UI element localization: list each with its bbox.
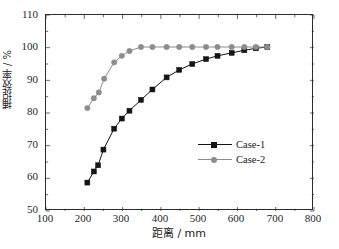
square-marker-icon bbox=[138, 97, 143, 102]
circle-marker-icon bbox=[119, 53, 124, 58]
circle-marker-icon bbox=[242, 44, 247, 49]
square-marker-icon bbox=[85, 180, 90, 185]
circle-marker-icon bbox=[203, 44, 208, 49]
square-marker-icon bbox=[112, 126, 117, 131]
square-marker-icon bbox=[229, 50, 234, 55]
circle-marker-icon bbox=[164, 44, 169, 49]
series-case-2 bbox=[85, 44, 270, 110]
legend-swatch-case-2 bbox=[198, 154, 232, 166]
legend-label-case-1: Case-1 bbox=[232, 139, 265, 151]
y-tick-label-110: 110 bbox=[8, 9, 38, 20]
circle-marker-icon bbox=[211, 157, 217, 163]
plot-area bbox=[45, 14, 313, 210]
circle-marker-icon bbox=[150, 44, 155, 49]
square-marker-icon bbox=[91, 169, 96, 174]
y-tick-label-60: 60 bbox=[8, 171, 38, 182]
circle-marker-icon bbox=[215, 44, 220, 49]
square-marker-icon bbox=[96, 163, 101, 168]
legend: Case-1 Case-2 bbox=[198, 137, 290, 167]
square-marker-icon bbox=[164, 75, 169, 80]
data-svg bbox=[46, 15, 314, 211]
square-marker-icon bbox=[190, 62, 195, 67]
circle-marker-icon bbox=[253, 44, 258, 49]
circle-marker-icon bbox=[138, 44, 143, 49]
y-tick-label-80: 80 bbox=[8, 106, 38, 117]
circle-marker-icon bbox=[91, 96, 96, 101]
x-tick-label-300: 300 bbox=[101, 213, 141, 224]
y-tick-label-70: 70 bbox=[8, 139, 38, 150]
square-marker-icon bbox=[215, 53, 220, 58]
x-axis-title: 距离 / mm bbox=[45, 228, 313, 240]
circle-marker-icon bbox=[190, 44, 195, 49]
square-marker-icon bbox=[150, 87, 155, 92]
x-tick-label-100: 100 bbox=[25, 213, 65, 224]
circle-marker-icon bbox=[265, 44, 270, 49]
circle-marker-icon bbox=[101, 76, 106, 81]
legend-item-case-2: Case-2 bbox=[198, 152, 290, 167]
circle-marker-icon bbox=[96, 90, 101, 95]
circle-marker-icon bbox=[111, 60, 116, 65]
circle-marker-icon bbox=[229, 44, 234, 49]
circle-marker-icon bbox=[85, 105, 90, 110]
square-marker-icon bbox=[211, 142, 217, 148]
square-marker-icon bbox=[177, 67, 182, 72]
circle-marker-icon bbox=[127, 48, 132, 53]
square-marker-icon bbox=[101, 147, 106, 152]
x-tick-label-500: 500 bbox=[178, 213, 218, 224]
x-tick-label-400: 400 bbox=[140, 213, 180, 224]
circle-marker-icon bbox=[177, 44, 182, 49]
y-tick-label-100: 100 bbox=[8, 41, 38, 52]
legend-label-case-2: Case-2 bbox=[232, 154, 265, 166]
square-marker-icon bbox=[127, 108, 132, 113]
x-tick-label-700: 700 bbox=[255, 213, 295, 224]
legend-item-case-1: Case-1 bbox=[198, 137, 290, 152]
square-marker-icon bbox=[204, 57, 209, 62]
chart-figure: 捕捉效率 / % 110 100 90 80 70 60 50 100 200 … bbox=[0, 0, 339, 249]
legend-swatch-case-1 bbox=[198, 139, 232, 151]
square-marker-icon bbox=[119, 116, 124, 121]
x-tick-label-600: 600 bbox=[216, 213, 256, 224]
x-tick-label-800: 800 bbox=[293, 213, 333, 224]
y-tick-label-90: 90 bbox=[8, 74, 38, 85]
x-tick-label-200: 200 bbox=[63, 213, 103, 224]
